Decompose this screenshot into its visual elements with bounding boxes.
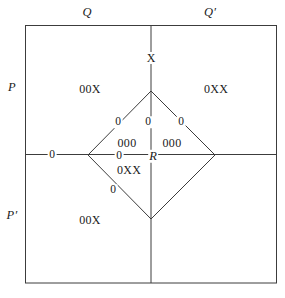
region-label-inner-upper-left: 000 bbox=[117, 137, 138, 149]
zero-marker-upper-right-edge: 0 bbox=[177, 116, 186, 128]
zero-marker-lower-left-edge: 0 bbox=[109, 184, 118, 196]
region-label-inner-lower-left: 0XX bbox=[116, 164, 142, 176]
region-label-lower-left: 00X bbox=[78, 214, 102, 226]
region-label-inner-upper-right: 000 bbox=[162, 137, 183, 149]
region-diagram-figure: Q Q′ P P′ X 00X 0XX 00X 000 000 0XX 0 0 … bbox=[0, 0, 285, 298]
quadrant-label-q: Q bbox=[81, 6, 92, 19]
zero-marker-left-inner-axis: 0 bbox=[115, 150, 124, 162]
zero-marker-upper-center-axis: 0 bbox=[144, 116, 153, 128]
region-label-upper-left: 00X bbox=[78, 83, 102, 95]
quadrant-label-q-prime: Q′ bbox=[203, 6, 217, 19]
zero-marker-upper-left-edge: 0 bbox=[114, 116, 123, 128]
zero-marker-left-outer-axis: 0 bbox=[48, 149, 57, 161]
diagram-lines bbox=[0, 0, 285, 298]
quadrant-label-p-prime: P′ bbox=[6, 209, 19, 222]
region-label-upper-right: 0XX bbox=[203, 83, 229, 95]
center-point-label-r: R bbox=[148, 150, 158, 163]
axis-marker-x: X bbox=[146, 52, 157, 64]
quadrant-label-p: P bbox=[7, 81, 17, 94]
